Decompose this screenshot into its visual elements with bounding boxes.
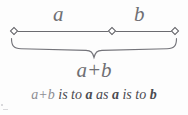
scan-artifact-tick (3, 109, 8, 110)
caption-lead: a+b (31, 87, 54, 102)
caption-term2: a (112, 87, 119, 102)
scan-artifact-dot (1, 104, 3, 106)
caption-text: a+b is to a as a is to b (0, 88, 188, 102)
caption-part2: as (93, 87, 112, 102)
segment-node-left-icon (10, 27, 18, 35)
golden-ratio-diagram: a b a+b a+b is to a as a is to b (0, 0, 188, 115)
caption-part1: is to (55, 87, 86, 102)
caption-part3: is to (119, 87, 150, 102)
caption-term3: b (150, 87, 157, 102)
total-length-brace-icon (10, 37, 178, 60)
segment-node-middle-icon (108, 27, 116, 35)
segment-node-right-icon (171, 27, 179, 35)
segment-b-label: b (134, 4, 145, 25)
segment-line (14, 31, 175, 32)
caption-term1: a (86, 87, 93, 102)
total-length-label: a+b (0, 60, 188, 81)
segment-a-label: a (53, 4, 64, 25)
